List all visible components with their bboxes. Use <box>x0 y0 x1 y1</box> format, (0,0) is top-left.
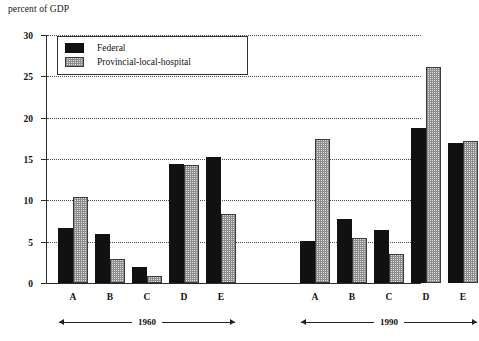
bar-federal-1990-A <box>300 241 315 283</box>
chart-legend: Federal Provincial-local-hospital <box>57 36 248 75</box>
bar-provincial-1960-A <box>73 197 88 283</box>
bar-provincial-1990-B <box>352 238 367 283</box>
y-tick-label-5: 5 <box>28 238 33 248</box>
x-label-1960-A: A <box>70 292 77 302</box>
y-tick-label-25: 25 <box>24 72 34 82</box>
bar-group-1960-B <box>94 234 126 283</box>
bar-group-1990-C <box>373 230 405 283</box>
bar-federal-1960-A <box>58 228 73 283</box>
y-tick-20: 20 <box>41 118 47 119</box>
legend-item-federal: Federal <box>65 41 240 55</box>
y-tick-label-0: 0 <box>28 279 33 289</box>
y-tick-15: 15 <box>41 159 47 160</box>
x-label-1960-B: B <box>107 292 113 302</box>
gridline-20 <box>47 118 421 119</box>
bar-federal-1990-B <box>337 219 352 283</box>
era-label-1960: 1960 <box>132 317 162 327</box>
bar-federal-1990-C <box>374 230 389 283</box>
bar-federal-1990-E <box>448 143 463 283</box>
legend-swatch-federal-icon <box>65 43 84 53</box>
bar-group-1960-A <box>57 197 89 283</box>
gridline-25 <box>47 76 421 77</box>
legend-label-provincial-local-hospital: Provincial-local-hospital <box>97 57 191 67</box>
bar-provincial-1990-C <box>389 254 404 283</box>
y-tick-25: 25 <box>41 76 47 77</box>
bar-federal-1960-E <box>206 157 221 283</box>
bar-provincial-1990-D <box>426 67 441 283</box>
bar-group-1990-E <box>447 141 479 283</box>
y-tick-10: 10 <box>41 200 47 201</box>
bar-federal-1990-D <box>411 128 426 283</box>
bar-group-1990-A <box>299 139 331 283</box>
bar-group-1990-D <box>410 67 442 283</box>
x-label-1990-D: D <box>423 292 430 302</box>
bar-provincial-1960-C <box>147 276 162 283</box>
era-indicator-1960: 1960 <box>59 316 235 328</box>
era-arrow-right-icon <box>230 319 235 325</box>
bar-provincial-1990-A <box>315 139 330 283</box>
bar-federal-1960-B <box>95 234 110 283</box>
x-label-1990-E: E <box>460 292 466 302</box>
y-tick-label-10: 10 <box>24 196 34 206</box>
bar-federal-1960-C <box>132 267 147 283</box>
era-arrow-left-icon <box>301 319 306 325</box>
x-label-1990-A: A <box>312 292 319 302</box>
era-arrow-right-icon <box>472 319 477 325</box>
era-label-1990: 1990 <box>374 317 404 327</box>
x-label-1960-C: C <box>144 292 151 302</box>
x-label-1990-C: C <box>386 292 393 302</box>
y-tick-0: 0 <box>41 283 47 284</box>
bar-group-1960-C <box>131 267 163 283</box>
x-label-1960-D: D <box>181 292 188 302</box>
legend-swatch-provincial-icon <box>65 57 84 67</box>
x-label-1960-E: E <box>218 292 224 302</box>
bar-group-1960-D <box>168 164 200 283</box>
chart-axis-title: percent of GDP <box>8 4 69 14</box>
era-indicator-1990: 1990 <box>301 316 477 328</box>
bar-provincial-1990-E <box>463 141 478 283</box>
legend-item-provincial-local-hospital: Provincial-local-hospital <box>65 55 240 69</box>
x-label-1990-B: B <box>349 292 355 302</box>
y-tick-30: 30 <box>41 35 47 36</box>
bar-group-1960-E <box>205 157 237 283</box>
bar-group-1990-B <box>336 219 368 283</box>
y-tick-label-20: 20 <box>24 114 34 124</box>
bar-provincial-1960-B <box>110 259 125 283</box>
y-tick-5: 5 <box>41 242 47 243</box>
era-arrow-left-icon <box>59 319 64 325</box>
y-tick-label-15: 15 <box>24 155 34 165</box>
y-tick-label-30: 30 <box>24 31 34 41</box>
bar-federal-1960-D <box>169 164 184 283</box>
legend-label-federal: Federal <box>97 43 126 53</box>
bar-provincial-1960-D <box>184 165 199 283</box>
bar-provincial-1960-E <box>221 214 236 283</box>
